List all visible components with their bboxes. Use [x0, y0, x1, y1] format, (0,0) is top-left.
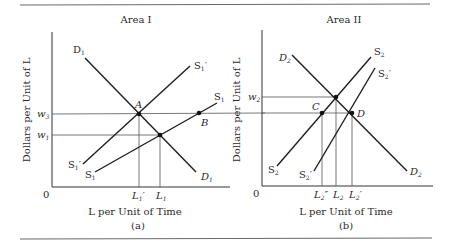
label-s1-top: S1 — [214, 91, 225, 103]
top-rule — [20, 4, 430, 5]
origin-a: 0 — [43, 189, 49, 200]
panel-b-x-axis-title: L per Unit of Time — [299, 206, 393, 217]
label-d2-top: D2 — [278, 52, 291, 64]
point-equilibrium-1 — [158, 133, 163, 138]
figure: Area I D1 D1 S1′ S1′ S1 S1 A B w3 w1 0 L… — [0, 0, 453, 246]
panel-a: Area I D1 D1 S1′ S1′ S1 S1 A B w3 w1 0 L… — [21, 14, 265, 231]
point-c — [320, 111, 325, 116]
panel-b-caption: (b) — [339, 220, 353, 231]
tick-l1: L1 — [155, 190, 166, 202]
label-s1-prime-bottom: S1′ — [68, 159, 82, 171]
panel-b-title: Area II — [326, 14, 362, 25]
label-point-b: B — [200, 117, 208, 128]
label-d1-top: D1 — [73, 44, 85, 56]
label-s2-prime-bottom: S2′ — [299, 169, 313, 181]
panel-a-title: Area I — [119, 14, 151, 25]
label-s1-bottom: S1 — [85, 169, 96, 181]
label-d2-bottom: D2 — [409, 166, 422, 178]
tick-l2: L2 — [332, 189, 344, 201]
point-equilibrium-2 — [334, 95, 339, 100]
point-a — [137, 112, 142, 117]
label-point-a: A — [134, 99, 142, 110]
panel-a-y-axis-title: Dollars per Unit of L — [21, 57, 32, 162]
tick-l2-prime: L2′ — [348, 189, 362, 201]
tick-w1: w1 — [37, 129, 49, 141]
panel-b-y-axis-title: Dollars per Unit of L — [231, 57, 242, 162]
point-d — [350, 111, 355, 116]
tick-l2-double-prime: L2″ — [313, 189, 328, 201]
tick-l1-prime: L1′ — [131, 190, 145, 202]
label-s2-top: S2 — [374, 46, 385, 58]
label-s1-prime-top: S1′ — [194, 60, 208, 72]
bottom-rule — [20, 238, 432, 239]
panel-a-caption: (a) — [131, 220, 145, 231]
panel-a-x-axis-title: L per Unit of Time — [88, 206, 182, 217]
panel-b: Area II D2 D2 S2 S2 S2′ S2′ C D w2 0 L2″ — [231, 14, 433, 231]
origin-b: 0 — [253, 188, 259, 199]
label-d1-bottom: D1 — [200, 171, 213, 183]
label-s2-prime-top: S2′ — [378, 68, 392, 80]
supply-curve-s2-prime — [314, 68, 375, 171]
tick-w2: w2 — [248, 91, 261, 103]
label-point-d: D — [356, 108, 365, 119]
label-point-c: C — [312, 101, 320, 112]
point-b — [197, 111, 202, 116]
tick-w3: w3 — [37, 108, 50, 120]
